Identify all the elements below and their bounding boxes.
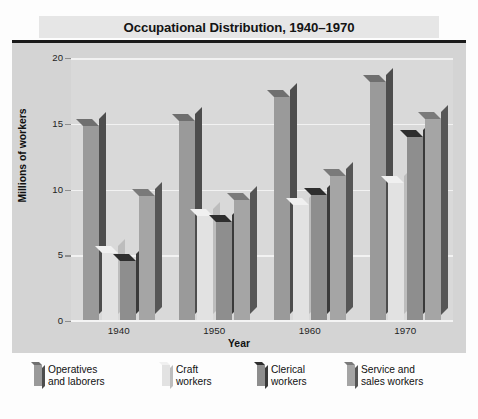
legend-label-line1: Craft	[176, 364, 212, 376]
bar-face	[179, 121, 195, 321]
y-tick-mark	[65, 190, 71, 191]
bar	[370, 82, 386, 321]
x-tick-label: 1940	[89, 325, 149, 336]
y-tick-label: 20	[33, 52, 63, 63]
x-tick-label: 1950	[184, 325, 244, 336]
bar	[388, 183, 404, 321]
legend-item[interactable]: Clericalworkers	[257, 364, 307, 387]
legend-swatch-face	[257, 365, 265, 386]
legend-label-line2: sales workers	[361, 376, 423, 388]
legend-label: Service andsales workers	[361, 364, 423, 387]
bar-face	[388, 183, 404, 321]
y-tick-label: 15	[33, 118, 63, 129]
y-tick-mark	[65, 124, 71, 125]
bar	[234, 200, 250, 321]
chart-legend: Operativesand laborersCraftworkersCleric…	[12, 364, 466, 406]
x-tick-label: 1960	[280, 325, 340, 336]
bar-side	[346, 162, 353, 314]
y-tick-label: 10	[33, 184, 63, 195]
bar-face	[234, 200, 250, 321]
x-axis-baseline	[71, 320, 453, 322]
legend-swatch-face	[34, 365, 42, 386]
y-tick-mark	[65, 58, 71, 59]
bar-face	[370, 82, 386, 321]
bar-top	[267, 90, 290, 97]
bar-face	[293, 205, 309, 321]
chart-figure: Occupational Distribution, 1940–1970 Mil…	[0, 0, 478, 419]
legend-swatch-side	[355, 365, 358, 389]
bar-top	[400, 130, 423, 137]
legend-swatch-top	[254, 362, 265, 365]
legend-swatch-top	[31, 362, 42, 365]
bar-top	[172, 114, 195, 121]
bar-face	[197, 216, 213, 321]
bar	[216, 222, 232, 321]
y-tick-mark	[65, 255, 71, 256]
bar	[120, 261, 136, 321]
bar-face	[330, 176, 346, 321]
legend-swatch-side	[170, 365, 173, 389]
bar-face	[139, 196, 155, 321]
bar-face	[425, 119, 441, 322]
legend-label-line2: and laborers	[48, 376, 105, 388]
bar-side	[250, 186, 257, 314]
bar	[274, 97, 290, 321]
bar-face	[83, 126, 99, 321]
bar-top	[323, 169, 346, 176]
x-axis-label: Year	[0, 338, 478, 349]
page-title: Occupational Distribution, 1940–1970	[39, 16, 439, 38]
y-tick-label: 0	[33, 315, 63, 326]
legend-swatch-side	[265, 365, 268, 389]
bar	[425, 119, 441, 322]
bar	[102, 253, 118, 321]
legend-swatch	[34, 365, 42, 386]
plot-area	[71, 58, 453, 321]
legend-label-line1: Operatives	[48, 364, 105, 376]
bar-face	[407, 137, 423, 321]
bar	[407, 137, 423, 321]
legend-label-line2: workers	[271, 376, 307, 388]
bar-top	[227, 193, 250, 200]
bar	[293, 205, 309, 321]
x-tick-label: 1970	[375, 325, 435, 336]
bar-face	[102, 253, 118, 321]
bar-side	[441, 105, 448, 315]
legend-swatch-face	[162, 365, 170, 386]
legend-label: Craftworkers	[176, 364, 212, 387]
bar-face	[311, 195, 327, 321]
legend-label: Operativesand laborers	[48, 364, 105, 387]
bar	[311, 195, 327, 321]
bar	[197, 216, 213, 321]
legend-label-line1: Service and	[361, 364, 423, 376]
legend-swatch-side	[42, 365, 45, 389]
bar	[139, 196, 155, 321]
bar	[179, 121, 195, 321]
bar	[83, 126, 99, 321]
bar-face	[274, 97, 290, 321]
legend-label: Clericalworkers	[271, 364, 307, 387]
legend-item[interactable]: Service andsales workers	[347, 364, 423, 387]
gridline	[71, 58, 453, 60]
legend-label-line2: workers	[176, 376, 212, 388]
legend-item[interactable]: Operativesand laborers	[34, 364, 105, 387]
y-tick-label: 5	[33, 249, 63, 260]
bar	[330, 176, 346, 321]
gridline	[71, 124, 453, 126]
y-tick-mark	[65, 321, 71, 322]
legend-swatch	[257, 365, 265, 386]
legend-swatch-top	[159, 362, 170, 365]
legend-item[interactable]: Craftworkers	[162, 364, 212, 387]
y-axis-label: Millions of workers	[17, 81, 28, 231]
bar-face	[216, 222, 232, 321]
bar-face	[120, 261, 136, 321]
legend-label-line1: Clerical	[271, 364, 307, 376]
bar-top	[363, 75, 386, 82]
bar-top	[418, 112, 441, 119]
legend-swatch-face	[347, 365, 355, 386]
legend-swatch	[162, 365, 170, 386]
legend-swatch	[347, 365, 355, 386]
bar-side	[155, 182, 162, 314]
legend-swatch-top	[344, 362, 355, 365]
